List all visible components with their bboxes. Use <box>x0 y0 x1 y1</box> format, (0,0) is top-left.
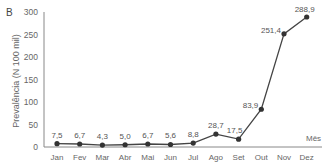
x-tick-label: Nov <box>277 153 291 162</box>
x-tick-label: Jun <box>164 153 177 162</box>
data-label: 6,7 <box>142 131 154 140</box>
data-label: 251,4 <box>261 26 282 35</box>
y-tick-label: 250 <box>24 30 38 40</box>
x-tick-label: Jan <box>51 153 64 162</box>
y-tick-label: 200 <box>24 52 38 62</box>
data-label: 4,3 <box>97 132 109 141</box>
data-point-marker <box>145 141 150 146</box>
prevalence-line-chart: B Prevalência (N 100 mil) Mês 0501001502… <box>0 0 334 168</box>
x-tick-label: Out <box>255 153 269 162</box>
data-point-marker <box>54 141 59 146</box>
data-point-marker <box>77 141 82 146</box>
data-label: 5,6 <box>165 131 177 140</box>
x-tick-label: Mar <box>96 153 110 162</box>
data-point-marker <box>213 131 218 136</box>
y-tick-label: 0 <box>33 142 38 152</box>
data-label: 83,9 <box>243 101 259 110</box>
data-point-marker <box>168 142 173 147</box>
series-line <box>57 17 307 145</box>
data-point-marker <box>236 137 241 142</box>
x-tick-label: Dez <box>300 153 314 162</box>
data-point-marker <box>259 107 264 112</box>
data-label: 6,7 <box>74 131 86 140</box>
data-label: 17,5 <box>227 126 243 135</box>
data-label: 7,5 <box>51 131 63 140</box>
data-label: 28,7 <box>208 121 224 130</box>
y-tick-label: 100 <box>24 97 38 107</box>
data-label: 8,8 <box>188 130 200 139</box>
plot-area: 050100150200250300JanFevMarAbrMaiJunJulA… <box>0 0 334 168</box>
data-point-marker <box>191 140 196 145</box>
x-tick-label: Set <box>233 153 246 162</box>
x-tick-label: Fev <box>73 153 86 162</box>
x-tick-label: Mai <box>141 153 154 162</box>
data-point-marker <box>123 142 128 147</box>
y-tick-label: 150 <box>24 75 38 85</box>
data-label: 288,9 <box>295 5 316 14</box>
data-point-marker <box>100 142 105 147</box>
x-tick-label: Jul <box>188 153 198 162</box>
data-label: 5,0 <box>120 132 132 141</box>
x-tick-label: Abr <box>119 153 132 162</box>
y-tick-label: 50 <box>29 120 39 130</box>
x-tick-label: Ago <box>209 153 224 162</box>
data-point-marker <box>281 31 286 36</box>
data-point-marker <box>304 14 309 19</box>
y-tick-label: 300 <box>24 7 38 17</box>
